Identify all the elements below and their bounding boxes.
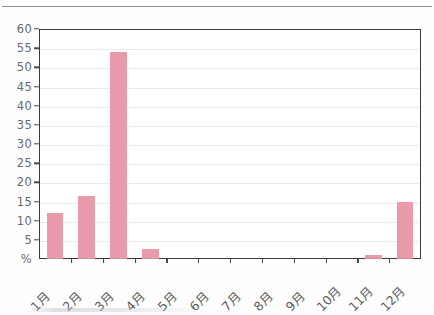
x-axis-tick-label: 10月	[312, 281, 346, 315]
gridline	[40, 203, 420, 204]
y-axis-tick-mark	[34, 239, 39, 240]
x-axis-tick-label: 7月	[216, 287, 244, 315]
y-axis-tick-mark	[34, 47, 39, 48]
x-axis-tick-mark	[135, 259, 136, 263]
x-axis-tick-mark	[357, 259, 358, 263]
gridline	[40, 241, 420, 242]
gridline	[40, 88, 420, 89]
y-axis-tick-label: 10	[17, 214, 32, 228]
top-divider-rule	[2, 6, 432, 7]
y-axis-tick-mark	[34, 143, 39, 144]
y-axis-tick-label: 35	[17, 118, 32, 132]
gridline	[40, 49, 420, 50]
plot-area-frame	[39, 29, 421, 259]
x-axis-tick-mark	[294, 259, 295, 263]
gridline	[40, 183, 420, 184]
x-axis-tick-label: 11月	[344, 281, 378, 315]
x-axis-tick-mark	[326, 259, 327, 263]
y-axis-tick-mark	[34, 67, 39, 68]
gridline	[40, 222, 420, 223]
x-axis-tick-label: 9月	[280, 287, 308, 315]
x-axis-tick-mark	[166, 259, 167, 263]
y-axis-tick-label: %	[21, 252, 32, 266]
x-axis-labels: 1月2月3月4月5月6月7月8月9月10月11月12月	[39, 264, 421, 309]
y-axis-tick-label: 25	[17, 156, 32, 170]
bar-chart-figure: %51015202530354045505560 1月2月3月4月5月6月7月8…	[0, 0, 434, 315]
x-axis-tick-mark	[262, 259, 263, 263]
y-axis: %51015202530354045505560	[0, 29, 39, 259]
x-axis-tick-mark	[71, 259, 72, 263]
y-axis-tick-mark	[34, 220, 39, 221]
x-axis-tick-mark	[389, 259, 390, 263]
gridline	[40, 68, 420, 69]
x-axis-tick-mark	[198, 259, 199, 263]
y-axis-tick-mark	[34, 28, 39, 29]
gridline	[40, 126, 420, 127]
gridline	[40, 107, 420, 108]
gridlines-group	[40, 30, 420, 258]
x-axis-tick-mark	[230, 259, 231, 263]
y-axis-tick-mark	[34, 105, 39, 106]
y-axis-tick-mark	[34, 86, 39, 87]
scan-artifact-smudge	[24, 308, 214, 312]
y-axis-tick-label: 40	[17, 99, 32, 113]
y-axis-tick-label: 55	[17, 41, 32, 55]
y-axis-tick-mark	[34, 162, 39, 163]
y-axis-tick-label: 5	[24, 233, 32, 247]
gridline	[40, 145, 420, 146]
y-axis-tick-label: 60	[17, 22, 32, 36]
y-axis-tick-label: 20	[17, 175, 32, 189]
y-axis-tick-label: 50	[17, 60, 32, 74]
y-axis-tick-label: 45	[17, 80, 32, 94]
y-axis-tick-mark	[34, 124, 39, 125]
y-axis-tick-label: 15	[17, 195, 32, 209]
y-axis-tick-mark	[34, 201, 39, 202]
x-axis-tick-mark	[103, 259, 104, 263]
y-axis-tick-label: 30	[17, 137, 32, 151]
x-axis-tick-label: 12月	[375, 281, 409, 315]
y-axis-tick-mark	[34, 182, 39, 183]
x-axis-tick-label: 8月	[248, 287, 276, 315]
gridline	[40, 164, 420, 165]
